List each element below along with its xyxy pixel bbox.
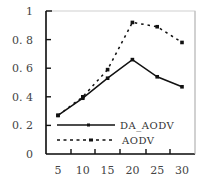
legend-marker-aodv [89,139,93,142]
y-tick-label: 0. 4 [12,91,33,104]
series-line-da-aodv [58,60,182,116]
y-axis-ticks: 00. 20. 40. 60. 81 [12,5,51,161]
data-point [155,25,159,29]
series-layer [56,21,184,118]
data-point [180,85,184,89]
data-point [106,68,110,72]
x-tick-label: 15 [101,164,115,177]
data-point [155,75,159,79]
y-tick-label: 0. 8 [12,34,33,47]
y-tick-label: 0. 6 [12,62,33,75]
x-tick-label: 5 [55,164,62,177]
data-point [180,41,184,45]
x-tick-label: 10 [76,164,90,177]
y-tick-label: 1 [26,5,33,18]
data-point [131,21,135,25]
data-point [131,58,135,62]
legend: DA_AODV AODV [57,120,175,146]
y-tick-label: 0 [26,148,33,161]
data-point [106,76,110,80]
legend-marker-da-aodv [87,124,90,127]
data-point [81,95,85,99]
x-tick-label: 25 [150,164,164,177]
x-tick-label: 20 [125,164,139,177]
data-point [56,114,60,118]
y-tick-label: 0. 2 [12,119,33,132]
line-chart: 00. 20. 40. 60. 81 51015202530 DA_AODV A… [0,0,202,185]
legend-label-da-aodv: DA_AODV [120,120,175,132]
legend-label-aodv: AODV [121,135,155,146]
x-tick-label: 30 [175,164,189,177]
